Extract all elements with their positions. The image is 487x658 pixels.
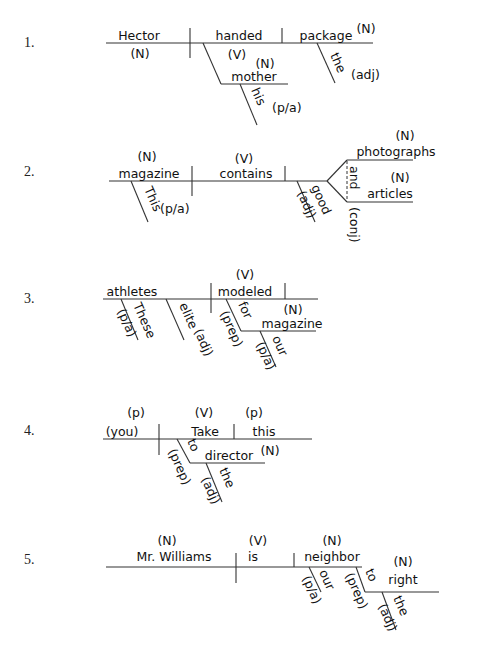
subject-tag: (N) — [130, 46, 149, 61]
subject-tag: (N) — [137, 149, 156, 164]
item-number: 4. — [24, 423, 35, 438]
prep-object-word: director — [205, 448, 254, 463]
conjunction-word: and — [347, 166, 362, 190]
subject-word: athletes — [107, 284, 158, 299]
indirect-object-word: mother — [231, 69, 277, 84]
verb-tag: (V) — [236, 267, 254, 282]
prep-object-tag: (N) — [283, 302, 302, 317]
prep-object-tag: (N) — [393, 554, 412, 569]
subject-word: magazine — [118, 166, 179, 181]
modifier-word: elite — [176, 300, 201, 331]
diagram-3: 3. athletes (V) modeled These (p/a) elit… — [24, 267, 323, 372]
conjunction-tag: (conj) — [347, 207, 362, 243]
verb-word: is — [248, 549, 258, 564]
complement-tag: (N) — [322, 533, 341, 548]
subject-word: (you) — [106, 424, 139, 439]
modifier-tag: (adj) — [351, 67, 380, 82]
indirect-object-slant — [203, 43, 221, 84]
modifier-word: his — [248, 85, 269, 107]
modifier-tag: (p/a) — [272, 100, 302, 115]
verb-tag: (V) — [235, 151, 253, 166]
verb-word: contains — [220, 166, 273, 181]
fork-upper — [327, 160, 347, 181]
subject-tag: (N) — [157, 533, 176, 548]
subject-tag: (p) — [127, 405, 145, 420]
modifier-slant — [131, 181, 148, 222]
item-number: 1. — [24, 35, 35, 50]
subject-word: Mr. Williams — [136, 549, 211, 564]
modifier-word: the — [216, 465, 238, 490]
modifier-word: the — [327, 50, 349, 75]
direct-object-tag: (N) — [356, 21, 375, 36]
object-2-tag: (N) — [390, 170, 409, 185]
prep-object-word: right — [388, 572, 417, 587]
verb-word: modeled — [218, 284, 273, 299]
object-1-tag: (N) — [395, 128, 414, 143]
verb-tag: (V) — [195, 405, 213, 420]
verb-word: handed — [215, 28, 262, 43]
direct-object-tag: (p) — [245, 405, 263, 420]
diagram-4: 4. (p) (you) (V) Take (p) this to (prep)… — [24, 405, 312, 507]
complement-word: neighbor — [304, 549, 361, 564]
diagram-2: 2. (N) magazine (V) contains (N) photogr… — [24, 128, 436, 243]
prep-object-word: magazine — [261, 316, 322, 331]
verb-tag: (V) — [249, 533, 267, 548]
diagram-worksheet: 1. Hector (N) handed (V) package (N) (N)… — [0, 0, 487, 658]
item-number: 3. — [24, 291, 35, 306]
object-1-word: photographs — [356, 144, 435, 159]
subject-word: Hector — [118, 28, 161, 43]
item-number: 2. — [24, 164, 35, 179]
diagram-5: 5. (N) Mr. Williams (V) is (N) neighbor … — [24, 533, 439, 634]
verb-tag: (V) — [228, 47, 246, 62]
modifier-tag: (adj) — [191, 326, 216, 358]
item-number: 5. — [24, 552, 35, 567]
object-2-word: articles — [367, 186, 413, 201]
direct-object-word: this — [253, 424, 276, 439]
diagram-1: 1. Hector (N) handed (V) package (N) (N)… — [24, 21, 380, 125]
direct-object-word: package — [300, 28, 353, 43]
prep-object-tag: (N) — [260, 443, 279, 458]
modifier-tag: (p/a) — [160, 201, 190, 216]
preposition-word: to — [362, 566, 381, 584]
preposition-word: for — [235, 299, 256, 322]
